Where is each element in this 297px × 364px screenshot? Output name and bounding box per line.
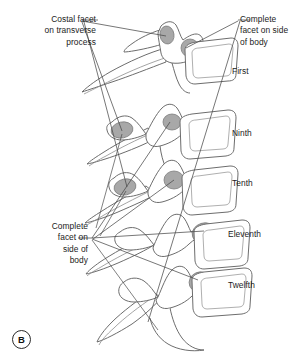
vertebra-tenth-body	[182, 166, 238, 215]
vertebra-ninth	[87, 104, 236, 168]
level-label-tenth: Tenth	[232, 178, 253, 189]
panel-label-b: B	[12, 330, 31, 349]
vertebra-twelfth-mammillary-process	[119, 278, 158, 302]
callout-label-costal-facet-on-transverse-process: Costal facet on transverse process	[4, 14, 96, 48]
vertebra-first-spinous-process	[82, 48, 166, 92]
level-label-ninth: Ninth	[232, 128, 252, 139]
callout-label-complete-facet-on-side-of-body-top: Complete facet on side of body	[240, 14, 296, 48]
vertebra-ninth-body	[180, 110, 236, 159]
vertebra-twelfth-body	[192, 268, 252, 317]
level-label-first: First	[232, 66, 249, 77]
level-label-twelfth: Twelfth	[228, 280, 255, 291]
vertebra-eleventh-transverse-process	[115, 228, 154, 250]
facet-demifacet-body-ninth	[163, 114, 181, 130]
level-label-eleventh: Eleventh	[228, 229, 261, 240]
vertebra-eleventh-body	[194, 220, 250, 269]
anatomy-figure-panel-b: Costal facet on transverse process Compl…	[0, 0, 297, 364]
callout-label-complete-facet-on-side-of-body-left: Complete facet on side of body	[8, 221, 88, 267]
vertebra-tenth	[85, 160, 238, 225]
vertebra-eleventh	[86, 214, 250, 276]
vertebra-first	[82, 22, 238, 94]
